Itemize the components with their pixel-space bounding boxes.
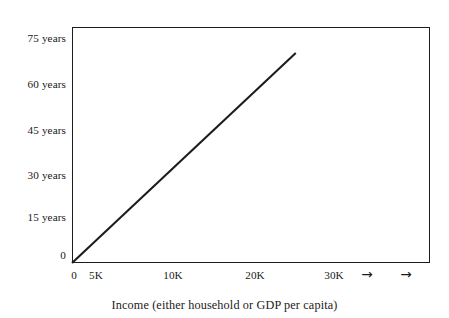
x-tick-label-30k: 30K bbox=[324, 270, 344, 281]
y-tick-label-30: 30 years bbox=[28, 170, 66, 181]
x-tick-arrow-icon-1: → bbox=[361, 268, 372, 282]
chart-figure: 75 years 60 years 45 years 30 years 15 y… bbox=[0, 0, 449, 318]
x-tick-arrow-icon-2: → bbox=[400, 268, 411, 282]
x-tick-label-10k: 10K bbox=[163, 270, 183, 281]
y-tick-label-15: 15 years bbox=[28, 212, 66, 223]
x-tick-label-20k: 20K bbox=[245, 270, 265, 281]
x-axis-title: Income (either household or GDP per capi… bbox=[0, 298, 449, 313]
y-tick-label-45: 45 years bbox=[28, 125, 66, 136]
plot-canvas bbox=[72, 27, 430, 263]
y-tick-label-75: 75 years bbox=[28, 33, 66, 44]
y-tick-label-0: 0 bbox=[60, 250, 66, 261]
y-tick-label-60: 60 years bbox=[28, 79, 66, 90]
x-tick-label-0: 0 bbox=[71, 270, 77, 281]
x-tick-label-5k: 5K bbox=[89, 270, 103, 281]
line-series-life-expectancy bbox=[72, 53, 296, 263]
